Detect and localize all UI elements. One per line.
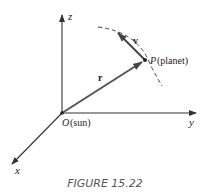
position-vector-r bbox=[62, 62, 142, 113]
figure-caption: FIGURE 15.22 bbox=[67, 177, 143, 190]
velocity-vector-v bbox=[118, 33, 145, 60]
origin-label-desc: (sun) bbox=[70, 117, 91, 129]
r-vector-label: r bbox=[98, 72, 103, 83]
x-axis-label: x bbox=[14, 164, 20, 176]
z-axis-label: z bbox=[67, 10, 73, 22]
orbit-diagram: z y x O (sun) P (planet) r v FIGURE 15.2… bbox=[0, 0, 210, 192]
planet-label-letter: P bbox=[149, 55, 156, 66]
origin-point bbox=[60, 111, 64, 115]
y-axis-label: y bbox=[188, 116, 194, 128]
origin-label-letter: O bbox=[62, 117, 69, 128]
x-axis bbox=[12, 113, 62, 164]
planet-label-desc: (planet) bbox=[157, 55, 188, 67]
v-vector-label: v bbox=[133, 35, 138, 46]
planet-point bbox=[143, 58, 147, 62]
